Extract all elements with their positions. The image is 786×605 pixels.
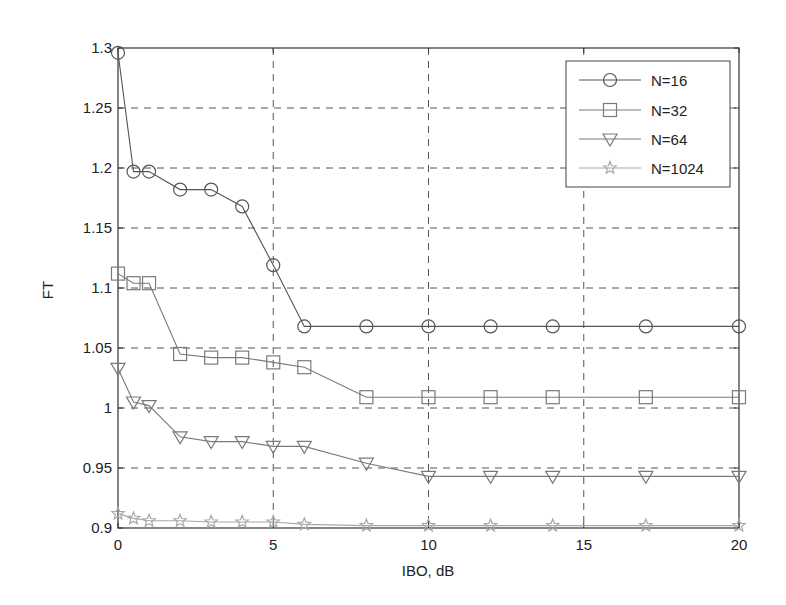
x-tick-label: 0 bbox=[114, 536, 122, 553]
y-tick-label: 1.15 bbox=[83, 219, 112, 236]
y-axis-label: FT bbox=[39, 281, 56, 299]
x-tick-label: 15 bbox=[575, 536, 592, 553]
x-tick-label: 20 bbox=[731, 536, 748, 553]
y-tick-label: 1.3 bbox=[91, 39, 112, 56]
y-tick-label: 0.95 bbox=[83, 459, 112, 476]
x-tick-label: 5 bbox=[269, 536, 277, 553]
x-axis-label: IBO, dB bbox=[402, 562, 455, 579]
y-tick-label: 1.1 bbox=[91, 279, 112, 296]
legend-label: N=16 bbox=[651, 72, 687, 89]
y-tick-label: 1.05 bbox=[83, 339, 112, 356]
x-tick-label: 10 bbox=[420, 536, 437, 553]
legend-label: N=64 bbox=[651, 131, 687, 148]
y-tick-labels: 0.90.9511.051.11.151.21.251.3 bbox=[83, 39, 112, 536]
x-tick-labels: 05101520 bbox=[114, 536, 748, 553]
y-tick-label: 0.9 bbox=[91, 519, 112, 536]
legend-label: N=32 bbox=[651, 102, 687, 119]
legend: N=16 N=32 N=64 N=1024 bbox=[566, 61, 730, 187]
y-tick-label: 1.25 bbox=[83, 99, 112, 116]
legend-label: N=1024 bbox=[651, 160, 704, 177]
y-tick-label: 1 bbox=[104, 399, 112, 416]
line-chart: 05101520 0.90.9511.051.11.151.21.251.3 I… bbox=[0, 0, 786, 605]
y-tick-label: 1.2 bbox=[91, 159, 112, 176]
